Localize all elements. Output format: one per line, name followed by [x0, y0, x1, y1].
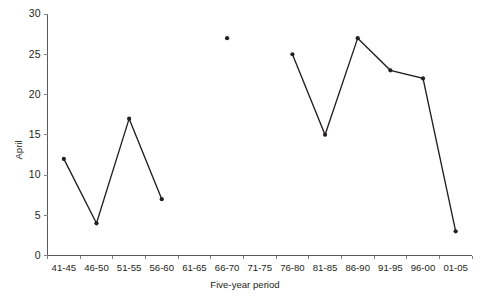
x-axis-tick-labels: 41-4546-5051-5556-6061-6566-7071-7576-80…: [52, 262, 468, 273]
x-axis-tick-label: 66-70: [215, 262, 240, 273]
y-axis-tick-label: 10: [29, 168, 41, 180]
data-point: [62, 157, 66, 161]
y-axis-tick-label: 25: [29, 48, 41, 60]
x-axis-tick-label: 96-00: [411, 262, 436, 273]
y-axis-tick-labels: 051015202530: [29, 7, 41, 261]
data-line-segment: [64, 119, 162, 224]
data-point: [94, 221, 98, 225]
x-axis-tick-label: 91-95: [378, 262, 403, 273]
x-axis-tick-label: 46-50: [84, 262, 109, 273]
data-point: [454, 229, 458, 233]
y-axis-tick-label: 15: [29, 128, 41, 140]
data-point: [356, 36, 360, 40]
data-point: [127, 117, 131, 121]
data-point: [225, 36, 229, 40]
x-axis-tick-label: 61-65: [182, 262, 207, 273]
data-point: [388, 68, 392, 72]
x-axis-tick-label: 81-85: [313, 262, 338, 273]
x-axis-tick-label: 86-90: [345, 262, 370, 273]
x-axis-title: Five-year period: [210, 279, 279, 290]
data-point: [421, 76, 425, 80]
data-series-points: [62, 36, 458, 233]
data-point: [323, 133, 327, 137]
y-axis-title: April: [13, 140, 24, 159]
y-axis-tick-label: 30: [29, 7, 41, 19]
data-point: [160, 197, 164, 201]
data-point: [290, 52, 294, 56]
x-axis-tick-label: 76-80: [280, 262, 305, 273]
chart-canvas: 051015202530 41-4546-5051-5556-6061-6566…: [0, 0, 488, 306]
x-axis-tick-label: 71-75: [247, 262, 272, 273]
x-axis-tick-label: 01-05: [443, 262, 468, 273]
x-axis-tick-label: 41-45: [52, 262, 77, 273]
x-axis-tick-label: 51-55: [117, 262, 142, 273]
x-axis-tick-label: 56-60: [150, 262, 175, 273]
y-axis-tick-label: 20: [29, 88, 41, 100]
y-axis-tick-label: 5: [35, 209, 41, 221]
y-axis-tick-label: 0: [35, 249, 41, 261]
data-series-line: [64, 38, 456, 231]
data-line-segment: [292, 38, 455, 231]
line-chart: 051015202530 41-4546-5051-5556-6061-6566…: [0, 0, 488, 306]
